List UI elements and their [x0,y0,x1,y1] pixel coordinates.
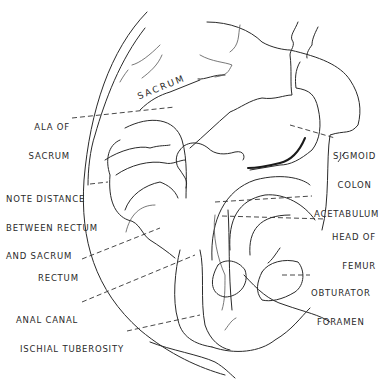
leader-ischial-tuberosity [127,315,200,331]
leader-head-of-femur [222,216,325,219]
label-line: SACRUM [14,152,70,162]
label-line: COLON [333,181,376,191]
label-sigmoid-colon: SIGMOID COLON [333,133,376,200]
label-ala-of-sacrum: ALA OF SACRUM [14,104,70,171]
label-line: OBTURATOR [311,289,371,299]
leader-acetabulum [215,196,312,202]
leader-anal-canal [82,255,195,302]
label-line: SIGMOID [333,152,376,162]
label-line: NOTE DISTANCE [6,195,98,205]
label-rectum: RECTUM [38,255,79,293]
label-line: ISCHIAL TUBEROSITY [20,345,124,355]
label-line: HEAD OF [328,233,376,243]
label-obturator-foramen: OBTURATOR FORAMEN [311,270,371,337]
label-ischial-tuberosity: ISCHIAL TUBEROSITY [20,326,124,364]
leader-ala-of-sacrum [72,107,175,118]
label-line: BETWEEN RECTUM [6,224,98,234]
label-line: ALA OF [14,123,70,133]
label-line: FORAMEN [311,318,371,328]
leader-sigmoid-colon [290,125,335,138]
label-line: ANAL CANAL [16,316,78,326]
label-line: RECTUM [38,274,79,284]
